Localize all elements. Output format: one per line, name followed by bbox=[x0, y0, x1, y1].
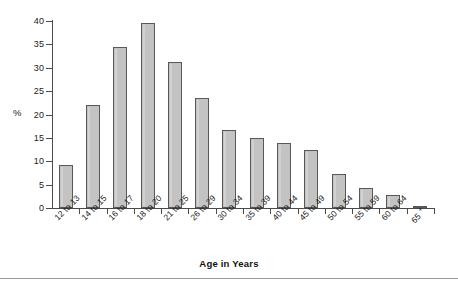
x-axis-tick bbox=[434, 209, 435, 214]
y-axis-tick-label: 25 bbox=[4, 87, 44, 96]
bar-highlight bbox=[334, 176, 336, 206]
y-axis-tick-label-wrap: 10 bbox=[0, 157, 44, 166]
bar bbox=[195, 98, 209, 208]
bar-highlight bbox=[61, 167, 63, 206]
bar-chart-figure: % 0510152025303540 12 to 1314 to 1516 to… bbox=[0, 0, 458, 286]
y-axis-tick-label: 10 bbox=[4, 157, 44, 166]
y-axis-tick-label: 30 bbox=[4, 64, 44, 73]
y-axis-tick-label-wrap: 5 bbox=[0, 181, 44, 190]
bar bbox=[86, 105, 100, 208]
y-axis-tick-label-wrap: 15 bbox=[0, 134, 44, 143]
y-axis-tick-label-wrap: 40 bbox=[0, 17, 44, 26]
bar-highlight bbox=[115, 49, 117, 206]
bar-highlight bbox=[88, 107, 90, 206]
footer-divider bbox=[0, 278, 458, 279]
bar bbox=[113, 47, 127, 208]
bar-highlight bbox=[279, 145, 281, 206]
y-axis-tick-label-wrap: 30 bbox=[0, 64, 44, 73]
bar-highlight bbox=[170, 64, 172, 206]
bar bbox=[141, 23, 155, 208]
y-axis-tick-label: 0 bbox=[4, 204, 44, 213]
bar-highlight bbox=[252, 140, 254, 206]
plot-area bbox=[52, 21, 434, 208]
y-axis-tick-label-wrap: 35 bbox=[0, 40, 44, 49]
y-axis-tick-label-wrap: 25 bbox=[0, 87, 44, 96]
bar-highlight bbox=[224, 132, 226, 206]
bar-highlight bbox=[306, 152, 308, 206]
y-axis-tick-label: 40 bbox=[4, 17, 44, 26]
x-axis-title: Age in Years bbox=[0, 258, 458, 269]
y-axis-tick-label: 35 bbox=[4, 40, 44, 49]
y-axis-tick-label-wrap: 20 bbox=[0, 111, 44, 120]
y-axis-tick-label: 5 bbox=[4, 181, 44, 190]
y-axis-tick-label: 15 bbox=[4, 134, 44, 143]
y-axis-tick-label-wrap: 0 bbox=[0, 204, 44, 213]
y-axis-tick-label: 20 bbox=[4, 111, 44, 120]
y-axis-tick bbox=[46, 208, 52, 209]
bar-highlight bbox=[143, 25, 145, 206]
bar bbox=[168, 62, 182, 208]
bar-highlight bbox=[197, 100, 199, 206]
